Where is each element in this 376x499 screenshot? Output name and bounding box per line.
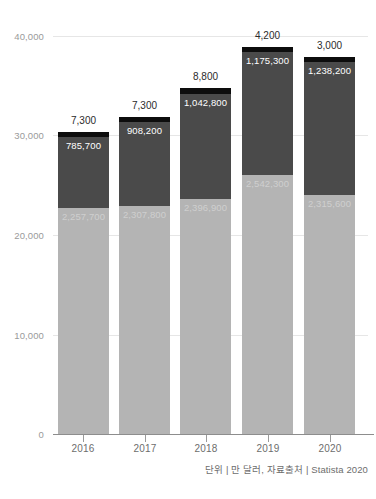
bar-segment-middle-label-2018: 1,042,800: [180, 97, 231, 108]
xtick-2017: [145, 435, 146, 442]
bar-total-label-2016: 7,300: [46, 115, 121, 126]
bar-segment-middle-2018[interactable]: 1,042,800: [180, 94, 231, 199]
bar-2016[interactable]: 7,300 785,700 2,257,700: [58, 132, 109, 434]
xtick-2019: [268, 435, 269, 442]
bar-segment-bottom-2017[interactable]: 2,307,800: [119, 206, 170, 434]
ytick-label-20000: 20,000: [0, 230, 44, 241]
bar-segment-bottom-label-2016: 2,257,700: [58, 211, 109, 222]
bar-segment-middle-label-2019: 1,175,300: [242, 55, 293, 66]
xtick-2018: [206, 435, 207, 442]
bar-2017[interactable]: 7,300 908,200 2,307,800: [119, 117, 170, 434]
xaxis-label-2018: 2018: [176, 443, 236, 454]
xtick-2016: [83, 435, 84, 442]
bar-total-label-2018: 8,800: [168, 71, 243, 82]
bar-segment-bottom-2016[interactable]: 2,257,700: [58, 208, 109, 434]
stacked-bar-chart: 40,000 30,000 20,000 10,000 0 7,300 785,…: [0, 0, 376, 499]
source-note: 단위 | 만 달러, 자료출처 | Statista 2020: [205, 462, 368, 476]
ytick-label-40000: 40,000: [0, 31, 44, 42]
bar-segment-middle-2016[interactable]: 785,700: [58, 137, 109, 208]
bar-total-label-2020: 3,000: [292, 40, 367, 51]
xaxis-label-2019: 2019: [238, 443, 298, 454]
xaxis-label-2016: 2016: [53, 443, 113, 454]
ytick-label-0: 0: [0, 429, 44, 440]
bar-2018[interactable]: 8,800 1,042,800 2,396,900: [180, 88, 231, 434]
bar-segment-middle-2017[interactable]: 908,200: [119, 122, 170, 206]
xaxis-label-2020: 2020: [300, 443, 360, 454]
bar-segment-middle-label-2016: 785,700: [58, 140, 109, 151]
bar-segment-bottom-2019[interactable]: 2,542,300: [242, 175, 293, 434]
xaxis-label-2017: 2017: [115, 443, 175, 454]
xtick-2020: [330, 435, 331, 442]
bar-segment-bottom-2018[interactable]: 2,396,900: [180, 199, 231, 434]
bar-segment-middle-label-2020: 1,238,200: [304, 65, 355, 76]
bar-segment-bottom-2020[interactable]: 2,315,600: [304, 195, 355, 434]
bar-2019[interactable]: 4,200 1,175,300 2,542,300: [242, 47, 293, 434]
gridline-40000: [53, 36, 368, 37]
bar-segment-bottom-label-2017: 2,307,800: [119, 209, 170, 220]
bar-segment-middle-label-2017: 908,200: [119, 125, 170, 136]
bar-segment-middle-2019[interactable]: 1,175,300: [242, 52, 293, 175]
bar-segment-bottom-label-2019: 2,542,300: [242, 178, 293, 189]
bar-total-label-2017: 7,300: [107, 100, 182, 111]
bar-2020[interactable]: 3,000 1,238,200 2,315,600: [304, 57, 355, 434]
bar-segment-bottom-label-2020: 2,315,600: [304, 198, 355, 209]
plot-area: 40,000 30,000 20,000 10,000 0 7,300 785,…: [0, 0, 376, 499]
bar-segment-bottom-label-2018: 2,396,900: [180, 202, 231, 213]
axis-baseline: [53, 434, 374, 435]
bar-segment-middle-2020[interactable]: 1,238,200: [304, 62, 355, 195]
ytick-label-10000: 10,000: [0, 330, 44, 341]
ytick-label-30000: 30,000: [0, 130, 44, 141]
